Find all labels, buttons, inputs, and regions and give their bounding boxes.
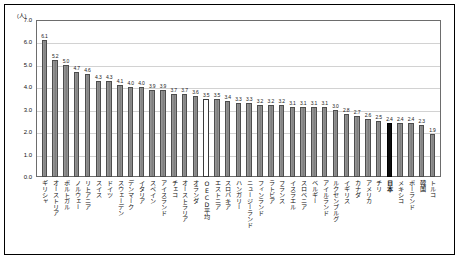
bar-rect [279,105,285,177]
x-label-slot: チェコ [168,180,179,256]
bar-item: 5.2 [50,20,61,177]
bar-rect [376,121,382,177]
x-label-slot: アイスランド [158,180,169,256]
bar-rect [74,72,80,177]
x-axis-label: OECD平均 [203,180,210,220]
x-axis-label: ドイツ [106,180,113,198]
bar-item: 3.2 [265,20,276,177]
bar-value-label: 3.1 [322,100,328,106]
bar-value-label: 3.5 [203,92,209,98]
bar-rect [246,103,252,177]
x-label-slot: スロバキア [222,180,233,256]
x-label-slot: イタリア [136,180,147,256]
bar-item: 5.0 [61,20,72,177]
bar-rect [397,123,403,177]
bar-rect [106,81,112,177]
bar-value-label: 2.5 [375,114,381,120]
x-label-slot: トルコ [427,180,438,256]
x-axis-label: 韓国 [418,180,425,192]
bar-series: 6.15.25.04.74.64.34.34.14.04.03.93.93.73… [36,20,441,177]
bar-rect [52,60,58,177]
x-label-slot: ポーランド [406,180,417,256]
x-axis-label: イスラエル [289,180,296,210]
bar-value-label: 4.7 [74,65,80,71]
bar-item: 4.7 [71,20,82,177]
y-axis-tick-4.0: 4.0 [24,84,32,90]
bar-rect [236,103,242,177]
bar-item: 3.0 [330,20,341,177]
y-axis-tick-7.0: 7.0 [24,17,32,23]
x-label-slot: オーストリア [50,180,61,256]
x-axis-label: カナダ [354,180,361,198]
bar-item: 3.1 [287,20,298,177]
bar-item: 3.6 [190,20,201,177]
bar-value-label: 3.3 [246,96,252,102]
bar-item: 3.1 [319,20,330,177]
y-axis-tick-3.0: 3.0 [24,107,32,113]
x-axis-label: ポーランド [408,180,415,210]
bar-value-label: 2.8 [343,107,349,113]
bar-rect [268,105,274,177]
x-axis-label: リトアニア [84,180,91,210]
bar-value-label: 2.6 [365,112,371,118]
y-axis-tick-2.0: 2.0 [24,129,32,135]
x-label-slot: ハンガリー [233,180,244,256]
x-axis-label: イタリア [138,180,145,204]
bar-item: 4.6 [82,20,93,177]
bar-item: 4.3 [93,20,104,177]
bar-value-label: 4.3 [106,74,112,80]
bar-item: 3.2 [255,20,266,177]
y-axis-tick-5.0: 5.0 [24,62,32,68]
x-label-slot: リトアニア [82,180,93,256]
x-label-slot: フランス [276,180,287,256]
x-label-slot: チリ [373,180,384,256]
bar-item: 3.1 [309,20,320,177]
bar-value-label: 2.4 [386,116,392,122]
x-label-slot: スウェーデン [114,180,125,256]
bar-item: 2.8 [341,20,352,177]
bar-rect [333,110,339,177]
x-label-slot: オランダ [190,180,201,256]
x-axis-label: スウェーデン [117,180,124,216]
x-label-slot: イスラエル [287,180,298,256]
x-axis-label: オーストリア [52,180,59,216]
bar-rect [365,119,371,177]
bar-rect [193,96,199,177]
bar-chart-figure: (人) 7.06.05.04.03.02.01.00.0 6.15.25.04.… [0,0,459,259]
x-axis-label: スイス [95,180,102,198]
bar-value-label: 3.2 [268,98,274,104]
bar-rect [203,99,209,178]
bar-item: 3.5 [201,20,212,177]
bar-item: 2.4 [406,20,417,177]
y-axis-tick-1.0: 1.0 [24,152,32,158]
x-axis-label: エストニア [214,180,221,210]
x-label-slot: OECD平均 [201,180,212,256]
x-label-slot: ポルトガル [61,180,72,256]
y-axis-tick-0.0: 0.0 [24,174,32,180]
bar-value-label: 2.4 [408,116,414,122]
x-axis-label: フィンランド [257,180,264,216]
x-axis-label: トルコ [429,180,436,198]
bar-rect [160,90,166,177]
bar-value-label: 3.9 [160,83,166,89]
bar-item: 6.1 [39,20,50,177]
bar-rect [63,65,69,177]
x-label-slot: スイス [93,180,104,256]
x-axis-label: ラトビア [268,180,275,204]
bar-item: 3.9 [147,20,158,177]
bar-rect [322,107,328,177]
x-axis-label: ニュージーランド [246,180,253,228]
bar-rect [387,123,393,177]
bar-rect [354,116,360,177]
bar-item: 2.4 [384,20,395,177]
bar-item: 2.3 [416,20,427,177]
bar-rect [96,81,102,177]
bar-rect [300,107,306,177]
bar-value-label: 3.7 [181,87,187,93]
x-label-slot: 日本 [384,180,395,256]
x-label-slot: イギリス [341,180,352,256]
x-axis-label: ギリシャ [41,180,48,204]
bar-rect [214,99,220,178]
bar-rect [171,94,177,177]
bar-rect [139,87,145,177]
